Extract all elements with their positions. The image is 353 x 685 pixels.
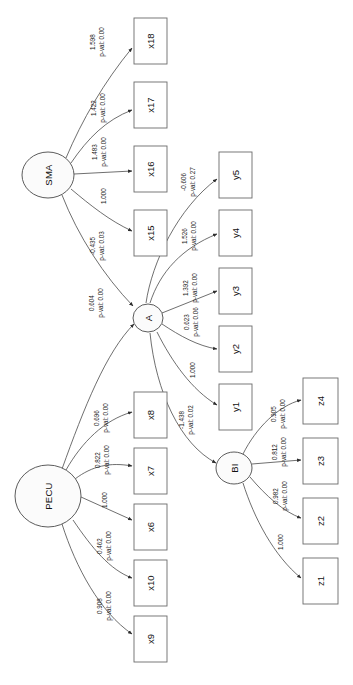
edge-pvalue: p-val: 0.00 (102, 403, 110, 433)
observed-node-label: x16 (145, 161, 156, 176)
edge-pvalue: p-val: 0.03 (98, 231, 106, 261)
observed-node-x6[interactable]: x6 (134, 504, 167, 550)
edge-estimate: 1.483 (91, 144, 98, 160)
edge-labels-layer: 1.598p-val: 0.001.422p-val: 0.001.483p-v… (88, 27, 289, 621)
observed-node-label: y1 (230, 402, 241, 412)
edge-estimate: -0.435 (89, 237, 96, 255)
observed-node-z2[interactable]: z2 (303, 498, 338, 544)
observed-node-x16[interactable]: x16 (134, 146, 167, 192)
edge-estimate: 0.623 (183, 314, 190, 330)
observed-node-x18[interactable]: x18 (134, 18, 167, 64)
edge-pvalue: p-val: 0.00 (99, 93, 107, 123)
latent-node-label: PECU (43, 482, 54, 510)
latent-node-pecu[interactable]: PECU (15, 465, 81, 527)
edge-label-sma-to-a: -0.435p-val: 0.03 (89, 231, 106, 261)
edge-label-pecu-to-x6: 1.000 (101, 492, 108, 508)
edge-estimate: 0.462 (96, 538, 103, 554)
sem-path-diagram: SMAABIPECUx18x17x16x15y5y4y3y2y1z4z3z2z1… (0, 0, 353, 685)
edge-label-pecu-to-x7: 0.822p-val: 0.00 (94, 445, 111, 475)
edge-pvalue: p-val: 0.00 (280, 437, 288, 467)
edge-a-to-y3 (162, 291, 217, 313)
edge-label-pecu-to-x10: 0.462p-val: 0.00 (96, 531, 113, 561)
edge-estimate: 1.526 (181, 228, 188, 244)
observed-node-label: x10 (145, 575, 156, 590)
edge-estimate: -1.438 (178, 411, 185, 429)
edge-pecu-to-a (62, 324, 134, 469)
latent-node-label: BI (229, 463, 240, 473)
edge-pvalue: p-val: 0.00 (98, 27, 106, 57)
edge-pvalue: p-val: 0.00 (105, 531, 113, 561)
observed-node-y2[interactable]: y2 (219, 326, 252, 372)
observed-node-x7[interactable]: x7 (134, 448, 167, 494)
observed-node-label: z2 (315, 516, 326, 526)
edge-estimate: 1.000 (100, 188, 107, 204)
edge-estimate: 0.982 (272, 488, 279, 504)
observed-node-x15[interactable]: x15 (134, 210, 167, 256)
observed-node-label: y4 (230, 228, 241, 238)
edge-pvalue: p-val: 0.02 (187, 405, 195, 435)
edge-label-sma-to-x18: 1.598p-val: 0.00 (89, 27, 106, 57)
edge-estimate: 1.392 (182, 280, 189, 296)
observed-node-z4[interactable]: z4 (303, 378, 338, 424)
observed-node-x17[interactable]: x17 (134, 82, 167, 128)
edge-label-a-to-y1: 1.000 (189, 362, 196, 378)
edge-estimate: 1.000 (189, 362, 196, 378)
edge-label-pecu-to-x8: 0.696p-val: 0.00 (93, 403, 110, 433)
edge-pvalue: p-val: 0.00 (105, 591, 113, 621)
edge-label-bi-to-z2: 0.982p-val: 0.00 (272, 481, 289, 511)
latent-node-label: A (143, 314, 154, 321)
observed-node-label: x15 (145, 225, 156, 240)
latent-node-sma[interactable]: SMA (22, 152, 74, 198)
edge-estimate: -0.606 (180, 173, 187, 191)
observed-node-label: y3 (230, 286, 241, 296)
edge-pvalue: p-val: 0.00 (190, 221, 198, 251)
edge-label-sma-to-x15: 1.000 (100, 188, 107, 204)
edge-pvalue: p-val: 0.00 (103, 445, 111, 475)
observed-node-label: y2 (230, 344, 241, 354)
edge-estimate: 0.905 (270, 406, 277, 422)
edge-label-pecu-to-a: 0.604p-val: 0.00 (88, 288, 105, 318)
nodes-layer: SMAABIPECUx18x17x16x15y5y4y3y2y1z4z3z2z1… (15, 18, 338, 662)
edge-label-a-to-y3: 1.392p-val: 0.00 (182, 273, 199, 303)
edge-estimate: 0.696 (93, 410, 100, 426)
observed-node-y4[interactable]: y4 (219, 210, 252, 256)
edge-sma-to-x16 (74, 171, 132, 174)
edge-label-bi-to-z4: 0.905p-val: 0.00 (270, 399, 287, 429)
edge-estimate: 1.422 (90, 100, 97, 116)
edge-label-a-to-y5: -0.606p-val: 0.27 (180, 167, 197, 197)
observed-node-label: x9 (145, 634, 156, 644)
observed-node-label: x7 (145, 466, 156, 476)
edge-pvalue: p-val: 0.27 (189, 167, 197, 197)
observed-node-y5[interactable]: y5 (219, 152, 252, 198)
observed-node-label: z1 (315, 576, 326, 586)
latent-node-bi[interactable]: BI (216, 452, 252, 484)
latent-node-a[interactable]: A (133, 304, 163, 332)
edge-pvalue: p-val: 0.00 (191, 273, 199, 303)
edge-estimate: 0.908 (96, 598, 103, 614)
observed-node-x9[interactable]: x9 (134, 616, 167, 662)
edge-label-sma-to-x17: 1.422p-val: 0.00 (90, 93, 107, 123)
edge-estimate: 0.822 (94, 452, 101, 468)
edge-pvalue: p-val: 0.06 (192, 307, 200, 337)
observed-node-label: x18 (145, 33, 156, 48)
edge-label-pecu-to-x9: 0.908p-val: 0.00 (96, 591, 113, 621)
observed-node-label: x8 (145, 410, 156, 420)
edge-label-a-to-y2: 0.623p-val: 0.06 (183, 307, 200, 337)
edge-estimate: 0.604 (88, 295, 95, 311)
observed-node-y3[interactable]: y3 (219, 268, 252, 314)
observed-node-y1[interactable]: y1 (219, 384, 252, 430)
observed-node-z3[interactable]: z3 (303, 438, 338, 484)
edge-estimate: 1.598 (89, 34, 96, 50)
edge-estimate: 1.000 (277, 534, 284, 550)
observed-node-x10[interactable]: x10 (134, 560, 167, 606)
edge-estimate: 1.000 (101, 492, 108, 508)
observed-node-label: z3 (315, 456, 326, 466)
observed-node-label: x6 (145, 522, 156, 532)
observed-node-label: z4 (315, 396, 326, 406)
observed-node-x8[interactable]: x8 (134, 392, 167, 438)
edge-label-a-to-y4: 1.526p-val: 0.00 (181, 221, 198, 251)
edge-label-bi-to-z1: 1.000 (277, 534, 284, 550)
edge-label-a-to-bi: -1.438p-val: 0.02 (178, 405, 195, 435)
observed-node-z1[interactable]: z1 (303, 558, 338, 604)
edge-pvalue: p-val: 0.00 (97, 288, 105, 318)
